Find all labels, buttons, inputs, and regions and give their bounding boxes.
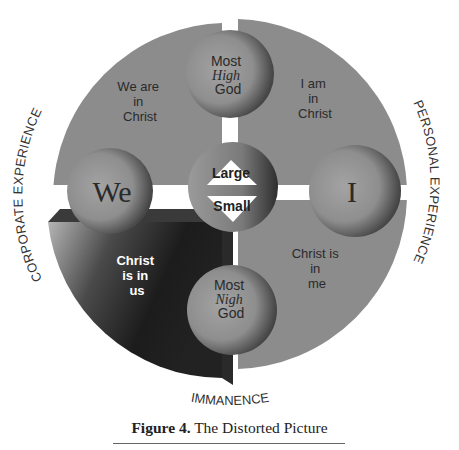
text-i: I <box>347 175 357 208</box>
text-we: We <box>92 175 131 208</box>
label-immanence: IMMANENCE <box>190 390 270 408</box>
figure-title: The Distorted Picture <box>194 419 327 436</box>
distorted-picture-diagram: We are in Christ I am in Christ Christ i… <box>0 0 459 450</box>
label-personal-experience: PERSONAL EXPERIENCE <box>411 98 443 266</box>
text-most-high-god: Most High God <box>211 53 245 97</box>
figure-number: Figure 4. <box>131 419 190 436</box>
figure-caption: Figure 4. The Distorted Picture <box>0 419 459 437</box>
text-large: Large <box>212 165 250 181</box>
caption-rule <box>113 443 345 444</box>
text-small: Small <box>213 198 250 214</box>
circle-large-small <box>188 142 278 232</box>
text-most-nigh-god: Most Nigh God <box>214 277 248 321</box>
label-corporate-experience: CORPORATE EXPERIENCE <box>10 105 45 284</box>
